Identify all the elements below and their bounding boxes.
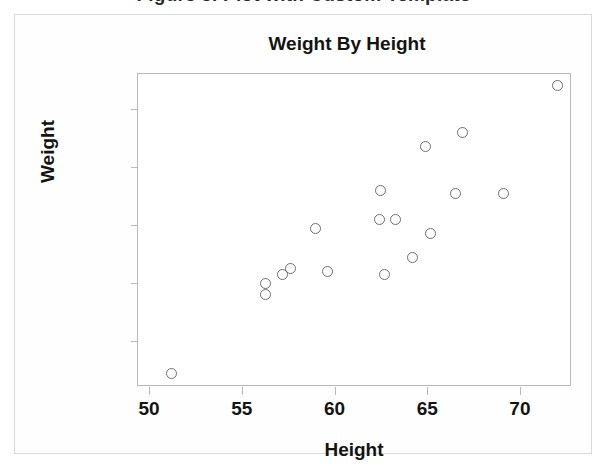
y-axis-tick-mark: [131, 225, 138, 226]
scatter-point: [166, 368, 177, 379]
scatter-point: [285, 263, 296, 274]
x-axis-tick-label: 60: [305, 398, 365, 420]
y-axis-tick-mark: [131, 109, 138, 110]
scatter-point: [260, 289, 271, 300]
x-axis-tick-label: 65: [397, 398, 457, 420]
scatter-point: [425, 228, 436, 239]
x-axis-tick-label: 70: [490, 398, 550, 420]
scatter-point: [450, 188, 461, 199]
x-axis-tick-mark: [149, 387, 150, 395]
scatter-point: [552, 80, 563, 91]
y-axis-tick-mark: [131, 341, 138, 342]
x-axis-label: Height: [137, 439, 571, 461]
x-axis-tick-mark: [520, 387, 521, 395]
scatter-point: [379, 269, 390, 280]
figure-caption-strip: Figure 3. Plot with Custom Template: [0, 0, 607, 13]
plot-area: 60801001201405055606570: [137, 73, 571, 386]
y-axis-tick-mark: [131, 283, 138, 284]
scatter-point: [260, 278, 271, 289]
figure-container: Weight By Height 60801001201405055606570…: [14, 14, 592, 454]
chart-title: Weight By Height: [123, 33, 571, 55]
scatter-point: [322, 266, 333, 277]
scatter-point: [407, 252, 418, 263]
y-axis-label: Weight: [37, 120, 59, 183]
scatter-point: [390, 214, 401, 225]
x-axis-tick-label: 50: [119, 398, 179, 420]
scatter-point: [420, 141, 431, 152]
x-axis-tick-label: 55: [212, 398, 272, 420]
x-axis-tick-mark: [242, 387, 243, 395]
scatter-point: [375, 185, 386, 196]
plot-canvas: [138, 74, 570, 385]
scatter-point: [498, 188, 509, 199]
figure-caption-text: Figure 3. Plot with Custom Template: [0, 0, 607, 6]
y-axis-tick-mark: [131, 167, 138, 168]
scatter-point: [374, 214, 385, 225]
x-axis-tick-mark: [335, 387, 336, 395]
scatter-point: [457, 127, 468, 138]
scatter-point: [310, 223, 321, 234]
x-axis-tick-mark: [427, 387, 428, 395]
